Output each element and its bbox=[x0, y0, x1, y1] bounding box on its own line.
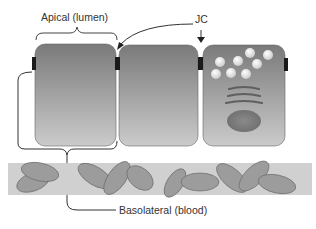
jc-label: JC bbox=[195, 13, 208, 25]
apical-bracket bbox=[36, 27, 117, 40]
apical-label: Apical (lumen) bbox=[41, 11, 108, 23]
epithelium-diagram bbox=[0, 0, 316, 229]
epithelial-cell-2 bbox=[119, 45, 198, 146]
junction-complex bbox=[115, 57, 120, 70]
jc-curved-arrow bbox=[121, 24, 193, 44]
junction-complex bbox=[284, 58, 288, 71]
jc-arrowhead-2 bbox=[197, 37, 205, 43]
junction-complex bbox=[32, 57, 36, 70]
nucleus bbox=[227, 110, 261, 132]
junction-complex bbox=[198, 57, 203, 70]
epithelial-cell-1 bbox=[35, 44, 116, 146]
basolateral-label: Basolateral (blood) bbox=[119, 204, 207, 216]
